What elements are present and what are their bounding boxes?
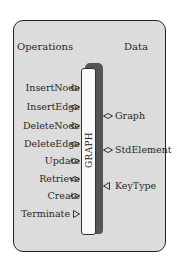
diamond-icon — [70, 123, 80, 129]
data-key-type: KeyType — [115, 180, 156, 192]
operation-terminate: Terminate — [21, 208, 70, 220]
data-graph: Graph — [115, 110, 145, 122]
diamond-icon — [103, 113, 113, 119]
data-header: Data — [124, 41, 148, 52]
module-name: GRAPH — [82, 150, 96, 151]
diamond-icon — [70, 141, 80, 147]
diamond-icon — [70, 85, 80, 91]
diamond-icon — [70, 158, 80, 164]
triangle-right-icon — [73, 210, 80, 218]
operations-header: Operations — [17, 41, 73, 52]
diamond-icon — [70, 176, 80, 182]
data-std-element: StdElement — [115, 144, 172, 156]
triangle-left-icon — [103, 182, 110, 190]
diamond-icon — [70, 193, 80, 199]
diamond-icon — [70, 104, 80, 110]
diamond-icon — [103, 147, 113, 153]
